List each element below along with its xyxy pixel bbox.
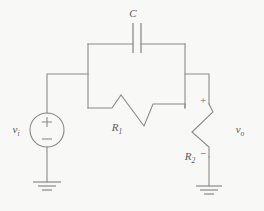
resistor-r1-symbol xyxy=(88,95,185,126)
output-plus-sign: + xyxy=(200,94,206,106)
resistor-r1-label-sub: 1 xyxy=(118,127,122,136)
resistor-r1-label-group: R1 xyxy=(111,121,122,136)
source-label-sub: i xyxy=(17,129,19,138)
circuit-diagram: C vi R1 R2 vo + − xyxy=(0,0,264,211)
circuit-canvas: C vi R1 R2 vo + − xyxy=(0,0,264,211)
ground-left-symbol xyxy=(33,182,61,190)
output-minus-sign: − xyxy=(200,147,206,159)
output-label-sub: o xyxy=(241,129,245,138)
source-plus-icon xyxy=(43,118,52,127)
source-label-group: vi xyxy=(13,123,20,138)
resistor-r2-label-group: R2 xyxy=(184,150,196,165)
wire-source-to-node xyxy=(47,74,88,113)
output-label-group: vo xyxy=(236,123,245,138)
resistor-r2-label-sub: 2 xyxy=(191,156,195,165)
ground-right-symbol xyxy=(196,186,222,194)
capacitor-label: C xyxy=(129,7,137,19)
